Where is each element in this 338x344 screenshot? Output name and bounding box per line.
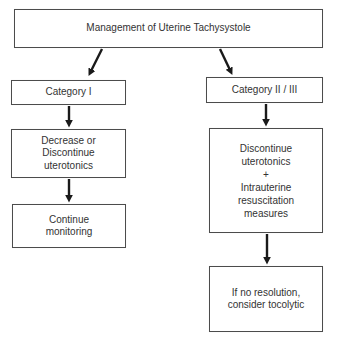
consider-tocolytic-label: If no resolution, consider tocolytic (228, 287, 305, 312)
arrow-title-to-category1 (91, 49, 102, 71)
node-discontinue-uterotonics: Discontinue uterotonics + Intrauterine r… (209, 128, 323, 233)
category-2-3-label: Category II / III (232, 84, 298, 97)
discontinue-uterotonics-label: Discontinue uterotonics + Intrauterine r… (238, 142, 294, 220)
flowchart-canvas: Management of Uterine Tachysystole Categ… (0, 0, 338, 344)
node-category-1: Category I (11, 80, 126, 105)
continue-monitoring-label: Continue monitoring (46, 214, 93, 239)
node-category-2-3: Category II / III (206, 77, 323, 103)
category-1-label: Category I (45, 86, 91, 99)
arrow-title-to-category23 (220, 49, 230, 70)
node-title: Management of Uterine Tachysystole (14, 9, 323, 48)
node-consider-tocolytic: If no resolution, consider tocolytic (209, 266, 323, 332)
node-decrease-uterotonics: Decrease or Discontinue uterotonics (11, 129, 126, 178)
decrease-uterotonics-label: Decrease or Discontinue uterotonics (41, 135, 95, 173)
title-label: Management of Uterine Tachysystole (86, 22, 250, 35)
node-continue-monitoring: Continue monitoring (12, 204, 126, 248)
